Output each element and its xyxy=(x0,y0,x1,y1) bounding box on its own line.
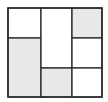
region-left-top xyxy=(8,8,41,38)
region-right-bottom xyxy=(72,68,102,97)
region-right-top xyxy=(72,8,102,38)
region-middle-bottom xyxy=(41,68,72,97)
region-middle-top xyxy=(41,8,72,68)
regions-group xyxy=(8,8,102,97)
region-right-middle xyxy=(72,38,102,68)
partitioned-square-diagram xyxy=(0,0,108,102)
region-left-bottom xyxy=(8,38,41,97)
